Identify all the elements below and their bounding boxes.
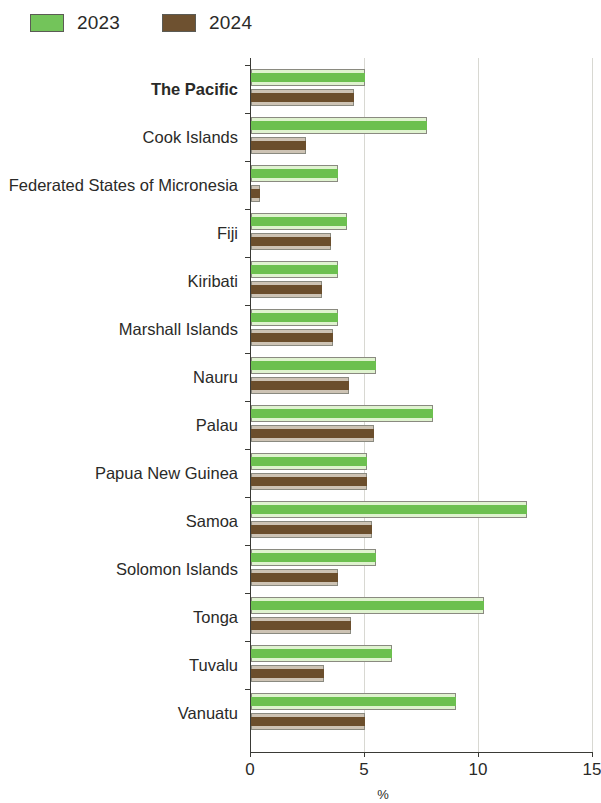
bar-core bbox=[251, 265, 338, 274]
bar-2023[interactable] bbox=[251, 693, 456, 710]
bar-group bbox=[251, 257, 592, 305]
bar-core bbox=[251, 361, 376, 370]
bar-core bbox=[251, 333, 333, 342]
bar-group bbox=[251, 449, 592, 497]
bar-group bbox=[251, 353, 592, 401]
bar-core bbox=[251, 189, 260, 198]
bar-2024[interactable] bbox=[251, 89, 354, 106]
bar-core bbox=[251, 381, 349, 390]
bar-core bbox=[251, 429, 374, 438]
category-tick bbox=[245, 305, 251, 306]
bar-2024[interactable] bbox=[251, 569, 338, 586]
bar-2024[interactable] bbox=[251, 377, 349, 394]
bar-2024[interactable] bbox=[251, 617, 351, 634]
bar-2023[interactable] bbox=[251, 357, 376, 374]
category-tick bbox=[245, 257, 251, 258]
category-tick bbox=[245, 65, 251, 66]
bar-core bbox=[251, 313, 338, 322]
bar-2023[interactable] bbox=[251, 501, 527, 518]
category-label: Papua New Guinea bbox=[0, 464, 238, 482]
bar-core bbox=[251, 169, 338, 178]
x-tick-label: 5 bbox=[359, 760, 368, 780]
bar-core bbox=[251, 717, 365, 726]
bar-core bbox=[251, 649, 392, 658]
category-label: Kiribati bbox=[0, 272, 238, 290]
bar-2023[interactable] bbox=[251, 165, 338, 182]
x-tick-mark bbox=[478, 752, 479, 757]
bar-2024[interactable] bbox=[251, 473, 367, 490]
bar-core bbox=[251, 93, 354, 102]
category-tick bbox=[245, 401, 251, 402]
x-axis-line bbox=[250, 752, 593, 753]
category-label: The Pacific bbox=[0, 80, 238, 98]
bar-core bbox=[251, 73, 365, 82]
bar-2023[interactable] bbox=[251, 597, 484, 614]
x-tick-mark bbox=[250, 752, 251, 757]
category-label: Nauru bbox=[0, 368, 238, 386]
category-label: Federated States of Micronesia bbox=[0, 176, 238, 194]
legend-label-2023: 2023 bbox=[77, 12, 120, 34]
bar-2023[interactable] bbox=[251, 261, 338, 278]
bar-2024[interactable] bbox=[251, 233, 331, 250]
bar-core bbox=[251, 697, 456, 706]
bar-2023[interactable] bbox=[251, 213, 347, 230]
bar-group bbox=[251, 305, 592, 353]
category-label: Samoa bbox=[0, 512, 238, 530]
category-label: Solomon Islands bbox=[0, 560, 238, 578]
bar-core bbox=[251, 573, 338, 582]
bar-2023[interactable] bbox=[251, 453, 367, 470]
bar-2023[interactable] bbox=[251, 405, 433, 422]
legend-item-2024: 2024 bbox=[162, 12, 252, 34]
bar-2024[interactable] bbox=[251, 137, 306, 154]
bar-core bbox=[251, 141, 306, 150]
category-tick bbox=[245, 593, 251, 594]
bar-core bbox=[251, 601, 484, 610]
category-tick bbox=[245, 209, 251, 210]
category-label: Tonga bbox=[0, 608, 238, 626]
bar-group bbox=[251, 401, 592, 449]
bar-core bbox=[251, 525, 372, 534]
category-tick bbox=[245, 113, 251, 114]
x-tick-mark bbox=[592, 752, 593, 757]
bar-2024[interactable] bbox=[251, 665, 324, 682]
category-tick bbox=[245, 353, 251, 354]
category-tick bbox=[245, 545, 251, 546]
gridline-15 bbox=[592, 58, 593, 752]
bar-2023[interactable] bbox=[251, 549, 376, 566]
x-tick-mark bbox=[364, 752, 365, 757]
category-tick bbox=[245, 497, 251, 498]
bar-2024[interactable] bbox=[251, 713, 365, 730]
category-tick bbox=[245, 161, 251, 162]
bar-2023[interactable] bbox=[251, 117, 427, 134]
bar-2023[interactable] bbox=[251, 69, 365, 86]
legend-label-2024: 2024 bbox=[209, 12, 252, 34]
category-label: Palau bbox=[0, 416, 238, 434]
x-tick-label: 15 bbox=[583, 760, 601, 780]
bar-group bbox=[251, 545, 592, 593]
x-tick-label: 0 bbox=[245, 760, 254, 780]
bar-2024[interactable] bbox=[251, 281, 322, 298]
bar-core bbox=[251, 237, 331, 246]
bar-group bbox=[251, 65, 592, 113]
category-tick bbox=[245, 641, 251, 642]
bar-core bbox=[251, 621, 351, 630]
bar-group bbox=[251, 641, 592, 689]
legend-swatch-2023-icon bbox=[30, 14, 64, 32]
category-tick bbox=[245, 689, 251, 690]
bar-2024[interactable] bbox=[251, 185, 260, 202]
bar-2023[interactable] bbox=[251, 645, 392, 662]
category-axis-labels: The PacificCook IslandsFederated States … bbox=[0, 58, 238, 752]
bar-core bbox=[251, 217, 347, 226]
x-tick-label: 10 bbox=[469, 760, 488, 780]
bar-group bbox=[251, 689, 592, 737]
bar-core bbox=[251, 409, 433, 418]
bar-2023[interactable] bbox=[251, 309, 338, 326]
bar-core bbox=[251, 477, 367, 486]
bar-2024[interactable] bbox=[251, 425, 374, 442]
legend-swatch-2024-icon bbox=[162, 14, 196, 32]
category-tick bbox=[245, 449, 251, 450]
bar-core bbox=[251, 553, 376, 562]
bar-2024[interactable] bbox=[251, 521, 372, 538]
bar-2024[interactable] bbox=[251, 329, 333, 346]
category-label: Vanuatu bbox=[0, 704, 238, 722]
